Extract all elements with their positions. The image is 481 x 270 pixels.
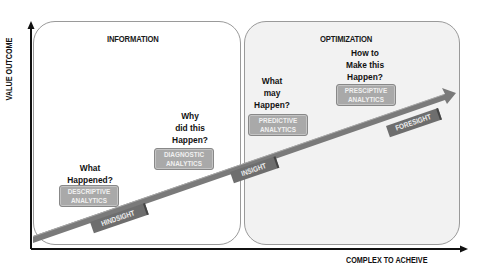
predictive-analytics-box: PREDICTIVE ANALYTICS (248, 114, 308, 136)
question-how-to-make-this-happen: How to Make this Happen? (334, 47, 396, 83)
prescriptive-analytics-box: PRESCIPTIVE ANALYTICS (336, 84, 396, 106)
question-what-may-happen: What may Happen? (244, 75, 300, 111)
growth-arrow (0, 0, 481, 270)
diagnostic-analytics-box: DIAGNOSTIC ANALYTICS (154, 148, 214, 170)
question-why-did-this-happen: Why did this Happen? (162, 110, 218, 146)
descriptive-analytics-box: DESCRIPTIVE ANALYTICS (59, 185, 119, 207)
question-what-happened: What Happened? (62, 162, 118, 186)
